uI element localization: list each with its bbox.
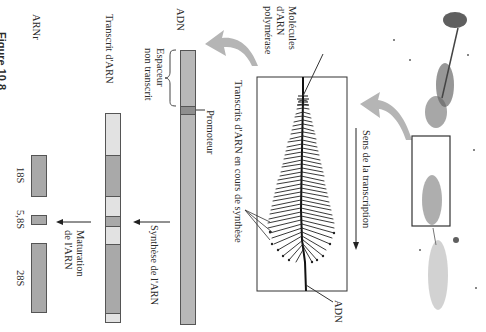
spacer-brace	[165, 50, 176, 106]
diagram-graphics	[0, 0, 486, 332]
synthesis-arrowhead-icon	[133, 219, 140, 225]
maturation-arrowhead-icon	[56, 219, 63, 225]
curved-arrow-left-icon	[205, 30, 258, 66]
curved-arrow-right-icon	[360, 92, 412, 140]
electron-micrograph	[393, 12, 477, 310]
direction-arrowhead-icon	[353, 242, 359, 250]
